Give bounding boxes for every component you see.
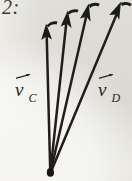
vc-subscript: C bbox=[28, 91, 36, 105]
vector-vd bbox=[50, 2, 132, 173]
vector-2 bbox=[50, 9, 78, 173]
vector-label-vc: v C bbox=[15, 80, 35, 99]
item-number-label: 2: bbox=[2, 0, 20, 19]
vc-symbol: v bbox=[15, 79, 23, 100]
vector-3 bbox=[50, 3, 100, 174]
vd-symbol: v bbox=[98, 79, 106, 100]
vector-label-vd: v D bbox=[98, 80, 119, 99]
arrow-overbar-icon bbox=[16, 73, 31, 80]
arrow-overbar-icon bbox=[99, 73, 114, 80]
vector-origin-point bbox=[47, 168, 54, 177]
vd-subscript: D bbox=[111, 91, 120, 105]
